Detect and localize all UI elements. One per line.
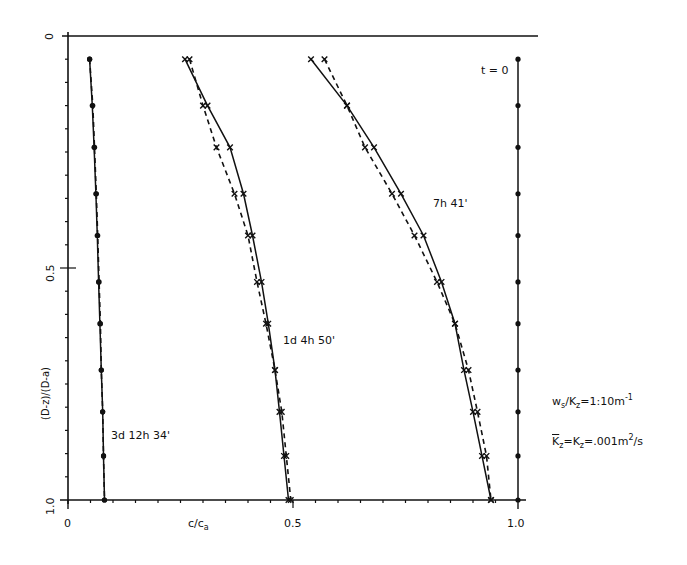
data-point-dot (515, 497, 520, 502)
annotation-1d4h50: 1d 4h 50' (283, 334, 335, 347)
x-tick-label-1.0: 1.0 (507, 517, 525, 530)
data-point-dot (515, 453, 520, 458)
y-tick-label-0.5: 0.5 (44, 265, 57, 283)
series-line (90, 59, 105, 500)
series-line (325, 59, 492, 500)
data-point-dot (102, 497, 107, 502)
data-point-dot (90, 103, 95, 108)
data-point-x (412, 233, 418, 239)
data-point-dot (515, 233, 520, 238)
data-point-x (322, 56, 328, 62)
y-tick-label-0: 0 (43, 33, 56, 40)
data-point-x (308, 56, 314, 62)
x-axis-label: c/ca (188, 517, 209, 532)
data-point-dot (515, 57, 520, 62)
annotation-3d12h34: 3d 12h 34' (111, 429, 170, 442)
x-tick-label-0.5: 0.5 (284, 517, 302, 530)
data-point-dot (101, 453, 106, 458)
series-line (90, 59, 105, 500)
parameter-diffusivity: Kz=Kz=.001m2/s (552, 433, 643, 450)
data-point-dot (92, 145, 97, 150)
data-point-x (362, 145, 368, 151)
data-point-dot (94, 191, 99, 196)
data-point-dot (95, 233, 100, 238)
data-point-dot (99, 367, 104, 372)
series-line (190, 59, 291, 500)
data-point-x (232, 191, 238, 197)
data-point-dot (515, 279, 520, 284)
data-point-dot (515, 145, 520, 150)
data-point-dot (96, 279, 101, 284)
annotation-t0: t = 0 (481, 64, 509, 77)
x-tick-label-0: 0 (64, 517, 71, 530)
y-tick-label-1.0: 1.0 (44, 498, 57, 516)
data-point-dot (515, 409, 520, 414)
data-point-dot (515, 367, 520, 372)
series-line (311, 59, 491, 500)
data-point-x (389, 191, 395, 197)
parameter-settling-ratio: ws/Kz=1:10m-1 (552, 393, 633, 410)
concentration-profile-chart (0, 0, 687, 565)
data-point-dot (100, 409, 105, 414)
y-axis-label: (D-z)/(D-a) (40, 367, 51, 420)
data-point-dot (515, 191, 520, 196)
data-point-dot (515, 321, 520, 326)
data-point-dot (87, 57, 92, 62)
series-line (185, 59, 289, 500)
data-point-x (434, 279, 440, 285)
data-point-x (344, 103, 350, 109)
data-point-dot (515, 103, 520, 108)
data-point-x (371, 145, 377, 151)
data-point-x (398, 191, 404, 197)
annotation-7h41: 7h 41' (433, 197, 468, 210)
data-point-dot (98, 321, 103, 326)
